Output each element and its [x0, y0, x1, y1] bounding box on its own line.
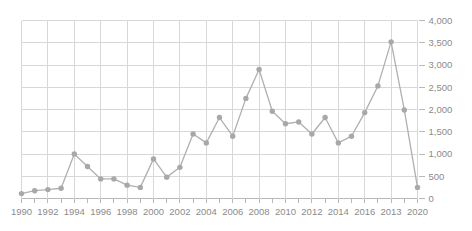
data-point-2009: 2009: 1960 [270, 109, 275, 114]
x-axis-label-2010: 2010 [275, 206, 296, 217]
data-point-2011: 2011: 1720 [296, 119, 301, 124]
horizontal-gridlines [22, 21, 418, 199]
data-point-2007: 2007: 2250 [243, 96, 248, 101]
line-chart: 1990: 1101991: 1751992: 2001993: 2301994… [0, 0, 472, 231]
y-axis-label-2,500: 2,500 [429, 82, 453, 93]
y-axis-label-1,000: 1,000 [429, 148, 453, 159]
x-axis-label-2016: 2016 [354, 206, 375, 217]
data-point-2019: 2019: 1990 [402, 107, 407, 112]
data-point-1991: 1991: 175 [32, 188, 37, 193]
data-point-2002: 2002: 700 [177, 165, 182, 170]
x-axis-label-1990: 1990 [11, 206, 32, 217]
y-axis-label-500: 500 [429, 171, 445, 182]
x-axis-label-2008: 2008 [249, 206, 270, 217]
x-axis-tick-marks [22, 199, 418, 203]
data-point-2008: 2008: 2900 [256, 67, 261, 72]
x-axis-label-2002: 2002 [169, 206, 190, 217]
data-point-1998: 1998: 300 [124, 182, 129, 187]
data-point-2016: 2016: 1930 [362, 110, 367, 115]
x-axis-label-2012: 2012 [301, 206, 322, 217]
data-point-2020: 2020: 250 [415, 185, 420, 190]
y-axis-label-4,000: 4,000 [429, 15, 453, 26]
x-axis-label-2004: 2004 [196, 206, 217, 217]
data-point-1999: 1999: 250 [138, 185, 143, 190]
data-point-2006: 2006: 1400 [230, 134, 235, 139]
data-point-2013: 2013: 1820 [322, 115, 327, 120]
data-point-2017: 2017: 2530 [375, 83, 380, 88]
x-axis-label-2013: 2013 [381, 206, 402, 217]
data-point-1994: 1994: 1000 [72, 151, 77, 156]
data-point-1990: 1990: 110 [19, 191, 24, 196]
data-point-2003: 2003: 1450 [190, 131, 195, 136]
x-axis-labels: 1990199219941996199820002002200420062008… [11, 206, 428, 217]
x-axis-label-2014: 2014 [328, 206, 349, 217]
data-point-2012: 2012: 1450 [309, 131, 314, 136]
data-point-markers: 1990: 1101991: 1751992: 2001993: 2301994… [19, 39, 420, 196]
y-axis-label-0: 0 [429, 193, 434, 204]
y-axis-label-2,000: 2,000 [429, 104, 453, 115]
data-point-1992: 1992: 200 [45, 187, 50, 192]
y-axis-label-1,500: 1,500 [429, 126, 453, 137]
data-point-2014: 2014: 1250 [336, 140, 341, 145]
x-axis-label-1996: 1996 [90, 206, 111, 217]
data-point-2001: 2001: 480 [164, 174, 169, 179]
data-point-1995: 1995: 720 [85, 164, 90, 169]
data-point-1997: 1997: 440 [111, 176, 116, 181]
chart-canvas: 1990: 1101991: 1751992: 2001993: 2301994… [0, 0, 472, 231]
x-axis-label-2000: 2000 [143, 206, 164, 217]
data-point-1996: 1996: 440 [98, 176, 103, 181]
x-axis-label-1992: 1992 [37, 206, 58, 217]
data-point-2018: 2018: 3520 [388, 39, 393, 44]
data-point-2010: 2010: 1680 [283, 121, 288, 126]
data-point-2005: 2005: 1820 [217, 115, 222, 120]
x-axis-label-1998: 1998 [117, 206, 138, 217]
y-axis-tick-marks [419, 21, 425, 199]
y-axis-label-3,500: 3,500 [429, 37, 453, 48]
data-point-2000: 2000: 890 [151, 156, 156, 161]
y-axis-labels: 05001,0001,5002,0002,5003,0003,5004,000 [429, 15, 453, 204]
y-axis-label-3,000: 3,000 [429, 59, 453, 70]
x-axis-label-2006: 2006 [222, 206, 243, 217]
x-axis-label-2020: 2020 [407, 206, 428, 217]
data-point-2004: 2004: 1250 [204, 140, 209, 145]
data-point-1993: 1993: 230 [58, 186, 63, 191]
data-point-2015: 2015: 1400 [349, 134, 354, 139]
x-axis-label-1994: 1994 [64, 206, 85, 217]
